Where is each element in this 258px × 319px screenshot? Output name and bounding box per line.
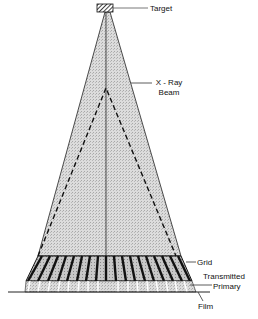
label-target: Target <box>150 4 172 13</box>
label-grid: Grid <box>197 258 212 267</box>
transmitted-primary <box>25 281 212 292</box>
xray-beam <box>38 12 181 256</box>
label-film: Film <box>198 302 213 311</box>
label-primary: Primary <box>213 282 241 291</box>
label-xray-beam-line1: X - Ray <box>152 78 186 87</box>
grid <box>26 256 196 281</box>
label-xray-beam-line2: Beam <box>152 88 186 97</box>
target-block <box>97 4 148 12</box>
film <box>8 292 210 301</box>
label-transmitted: Transmitted <box>203 272 245 281</box>
